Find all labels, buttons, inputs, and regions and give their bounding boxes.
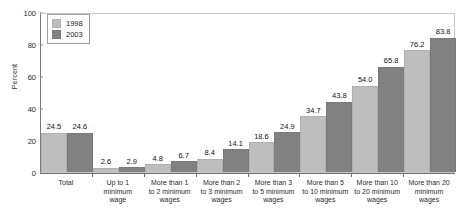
y-axis-ticks: 020406080100 <box>12 0 36 212</box>
bar-value-label: 43.8 <box>332 91 347 100</box>
x-axis-group-separator <box>403 173 404 177</box>
bar-value-label: 24.6 <box>73 122 88 131</box>
bar-wrapper: 2.9 <box>119 14 145 172</box>
bar-wrapper: 34.7 <box>300 14 326 172</box>
bar-wrapper: 2.6 <box>93 14 119 172</box>
bar-wrapper: 76.2 <box>404 14 430 172</box>
bar-1998[interactable] <box>300 116 326 172</box>
legend-item[interactable]: 1998 <box>52 18 83 29</box>
bar-value-label: 14.1 <box>228 139 243 148</box>
bar-value-label: 65.8 <box>384 56 399 65</box>
bar-group-bars: 18.624.9 <box>249 14 301 172</box>
bar-wrapper: 6.7 <box>171 14 197 172</box>
bar-1998[interactable] <box>352 86 378 172</box>
y-tick-label: 20 <box>14 137 36 146</box>
bar-value-label: 18.6 <box>254 132 269 141</box>
legend: 19982003 <box>47 14 90 44</box>
bar-1998[interactable] <box>145 164 171 172</box>
bar-wrapper: 83.8 <box>430 14 456 172</box>
bar-group-bars: 34.743.8 <box>300 14 352 172</box>
bar-wrapper: 4.8 <box>145 14 171 172</box>
y-tick-label: 100 <box>14 9 36 18</box>
bar-2003[interactable] <box>119 167 145 172</box>
y-tick-label: 60 <box>14 73 36 82</box>
legend-label: 1998 <box>66 19 83 28</box>
bar-group: 4.86.7 <box>145 14 197 172</box>
bar-wrapper: 43.8 <box>326 14 352 172</box>
bar-value-label: 83.8 <box>436 27 451 36</box>
legend-label: 2003 <box>66 30 83 39</box>
bar-group: 8.414.1 <box>197 14 249 172</box>
bar-value-label: 24.9 <box>280 122 295 131</box>
bar-1998[interactable] <box>93 168 119 172</box>
bar-1998[interactable] <box>404 50 430 172</box>
x-axis-group-separator <box>248 173 249 177</box>
bar-group-bars: 2.62.9 <box>93 14 145 172</box>
bar-chart: Percent 020406080100 24.524.62.62.94.86.… <box>0 0 459 212</box>
bar-value-label: 24.5 <box>47 122 62 131</box>
x-axis-label-line: wages <box>397 196 459 205</box>
bar-2003[interactable] <box>223 149 249 172</box>
x-axis-group-separator <box>196 173 197 177</box>
bar-1998[interactable] <box>197 159 223 172</box>
bar-wrapper: 65.8 <box>378 14 404 172</box>
legend-swatch-icon <box>52 19 61 28</box>
x-axis-group-separator <box>351 173 352 177</box>
bar-value-label: 34.7 <box>306 106 321 115</box>
bar-group: 76.283.8 <box>404 14 456 172</box>
bar-2003[interactable] <box>171 161 197 172</box>
bar-wrapper: 18.6 <box>249 14 275 172</box>
bar-wrapper: 14.1 <box>223 14 249 172</box>
bar-2003[interactable] <box>67 133 93 172</box>
bar-value-label: 76.2 <box>410 40 425 49</box>
x-axis-group-separator <box>92 173 93 177</box>
bar-2003[interactable] <box>378 67 404 172</box>
bar-wrapper: 8.4 <box>197 14 223 172</box>
plot-inner: 24.524.62.62.94.86.78.414.118.624.934.74… <box>41 14 454 172</box>
bar-2003[interactable] <box>274 132 300 172</box>
y-tick-label: 0 <box>14 169 36 178</box>
bar-value-label: 8.4 <box>204 148 214 157</box>
bar-value-label: 6.7 <box>178 151 188 160</box>
legend-swatch-icon <box>52 30 61 39</box>
bar-value-label: 4.8 <box>153 154 163 163</box>
bar-group-bars: 76.283.8 <box>404 14 456 172</box>
x-axis-group-separator <box>144 173 145 177</box>
bar-group-bars: 8.414.1 <box>197 14 249 172</box>
x-axis-label-line: minimum <box>397 188 459 197</box>
bar-wrapper: 24.9 <box>274 14 300 172</box>
bar-group-bars: 4.86.7 <box>145 14 197 172</box>
bar-wrapper: 54.0 <box>352 14 378 172</box>
bar-group: 18.624.9 <box>249 14 301 172</box>
bar-group: 34.743.8 <box>300 14 352 172</box>
bar-2003[interactable] <box>430 38 456 172</box>
x-axis-label: More than 20minimumwages <box>397 179 459 205</box>
bar-2003[interactable] <box>326 102 352 172</box>
x-axis-label-line: More than 20 <box>397 179 459 188</box>
x-axis-group-separator <box>299 173 300 177</box>
legend-item[interactable]: 2003 <box>52 29 83 40</box>
bar-1998[interactable] <box>249 142 275 172</box>
bar-value-label: 2.6 <box>101 157 111 166</box>
y-tick-label: 80 <box>14 41 36 50</box>
plot-area: 24.524.62.62.94.86.78.414.118.624.934.74… <box>40 13 455 173</box>
bar-1998[interactable] <box>41 133 67 172</box>
bar-group-bars: 54.065.8 <box>352 14 404 172</box>
bar-value-label: 54.0 <box>358 75 373 84</box>
bar-group: 54.065.8 <box>352 14 404 172</box>
y-tick-label: 40 <box>14 105 36 114</box>
bar-value-label: 2.9 <box>127 157 137 166</box>
bar-group: 2.62.9 <box>93 14 145 172</box>
